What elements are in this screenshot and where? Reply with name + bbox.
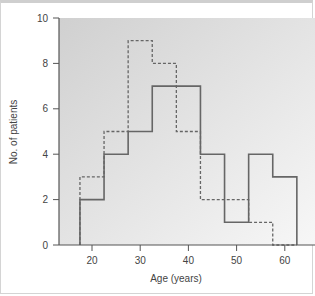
- x-tick-label: 40: [183, 255, 195, 266]
- y-ticks: 0246810: [37, 13, 59, 251]
- x-tick-label: 50: [231, 255, 243, 266]
- histogram-chart: 0246810 2030405060 Age (years) No. of pa…: [0, 0, 315, 296]
- y-tick-label: 10: [37, 13, 49, 24]
- x-tick-label: 30: [135, 255, 147, 266]
- x-axis-title: Age (years): [150, 273, 202, 284]
- x-ticks: 2030405060: [86, 245, 290, 266]
- y-tick-label: 4: [42, 149, 48, 160]
- y-tick-label: 2: [42, 194, 48, 205]
- x-tick-label: 20: [86, 255, 98, 266]
- y-tick-label: 8: [42, 58, 48, 69]
- y-tick-label: 0: [42, 240, 48, 251]
- y-axis-title: No. of patients: [8, 100, 19, 164]
- y-tick-label: 6: [42, 103, 48, 114]
- x-tick-label: 60: [279, 255, 291, 266]
